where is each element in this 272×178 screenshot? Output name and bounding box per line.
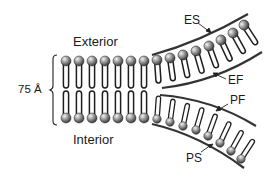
interior-label: Interior — [73, 133, 113, 146]
thickness-label: 75 Å — [18, 84, 42, 96]
pf-label: PF — [230, 94, 245, 106]
exterior-label: Exterior — [73, 35, 118, 48]
flat-lower-leaflet — [61, 91, 149, 123]
ps-label: PS — [186, 152, 202, 164]
upper-fractured-leaflet — [152, 14, 262, 88]
thickness-brace — [50, 55, 57, 125]
freeze-fracture-diagram: Exterior Interior 75 Å ES EF PF PS — [0, 0, 272, 178]
ef-label: EF — [228, 74, 243, 86]
flat-upper-leaflet — [61, 56, 149, 88]
ef-surface-line — [162, 52, 262, 88]
es-label: ES — [184, 14, 200, 26]
